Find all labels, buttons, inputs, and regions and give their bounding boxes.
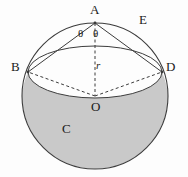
angle-label-theta-right: θ — [93, 28, 98, 39]
region-label-C: C — [62, 122, 71, 135]
vertex-dot-D — [161, 71, 164, 74]
point-label-B: B — [11, 60, 20, 73]
radius-label-r: r — [96, 60, 100, 71]
point-label-D: D — [166, 60, 175, 73]
vertex-dot-A — [94, 22, 97, 25]
point-label-A: A — [90, 3, 99, 16]
point-label-O: O — [91, 100, 100, 113]
vertex-dot-B — [27, 71, 30, 74]
angle-label-theta-left: θ — [78, 28, 83, 39]
sphere-diagram: A E B D O C θ θ r — [0, 0, 188, 177]
point-label-E: E — [139, 13, 147, 26]
